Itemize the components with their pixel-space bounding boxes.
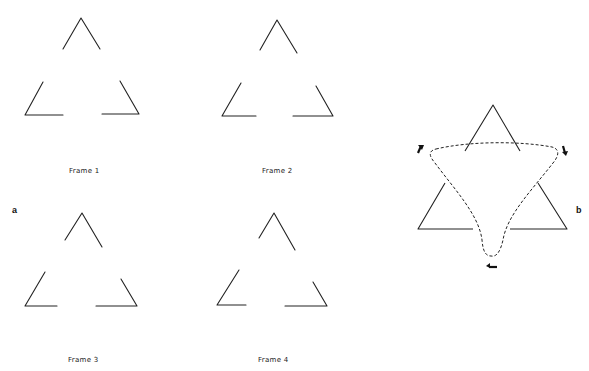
rotation-arrow-top-left-icon [418, 145, 424, 153]
frame-label: Frame 4 [258, 356, 289, 364]
figure-canvas [0, 0, 589, 371]
rotation-arrow-bottom-icon [486, 263, 497, 268]
left-vertex-fragment [25, 272, 57, 306]
panel-b-illusory-triangle [418, 105, 568, 268]
frame-label: Frame 3 [68, 356, 99, 364]
right-vertex-fragment [285, 282, 327, 306]
panel-letter-b: b [576, 205, 582, 215]
panel-a-frames [25, 18, 333, 306]
frame-2-fragments [222, 20, 333, 116]
panel-letter-a: a [12, 205, 17, 215]
frame-4-fragments [217, 213, 327, 306]
left-vertex-fragment [222, 83, 256, 116]
frame-1-fragments [25, 18, 139, 115]
top-vertex-fragment [63, 18, 100, 49]
rotation-arrow-top-right-icon [562, 146, 568, 156]
right-vertex-fragment [96, 279, 137, 306]
frame-label: Frame 1 [69, 167, 100, 175]
right-vertex-fragment [293, 86, 333, 116]
top-vertex-fragment [259, 213, 295, 250]
top-vertex-fragment [65, 213, 102, 247]
triangle-left [418, 183, 473, 229]
left-vertex-fragment [217, 270, 246, 305]
right-vertex-fragment [102, 81, 139, 114]
top-vertex-fragment [260, 20, 297, 53]
left-vertex-fragment [25, 82, 63, 115]
frame-label: Frame 2 [262, 167, 293, 175]
dashed-contour [430, 143, 558, 256]
frame-3-fragments [25, 213, 137, 306]
